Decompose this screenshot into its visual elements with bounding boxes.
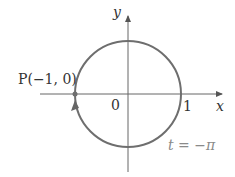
tick-one-label: 1 (183, 99, 192, 113)
point-p-label: P(−1, 0) (18, 72, 77, 86)
x-axis-label: x (216, 99, 224, 113)
y-axis-label: y (113, 5, 121, 19)
point-p-dot (73, 92, 78, 97)
origin-label: 0 (111, 98, 120, 112)
parameter-label: t = −π (168, 138, 215, 152)
